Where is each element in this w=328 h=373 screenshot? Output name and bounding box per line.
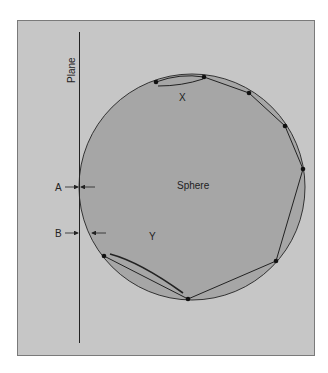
point	[301, 167, 306, 172]
point	[186, 297, 191, 302]
plane-sphere-diagram: Plane Sphere X Y A B	[0, 0, 328, 373]
point	[283, 124, 288, 129]
b-label: B	[55, 228, 62, 239]
point	[154, 80, 159, 85]
point	[102, 254, 107, 259]
point	[247, 91, 252, 96]
y-label: Y	[149, 231, 156, 242]
a-label: A	[55, 182, 62, 193]
sphere-label: Sphere	[177, 180, 210, 191]
point	[202, 75, 207, 80]
point	[274, 259, 279, 264]
x-label: X	[179, 92, 186, 103]
plane-label: Plane	[66, 57, 77, 83]
